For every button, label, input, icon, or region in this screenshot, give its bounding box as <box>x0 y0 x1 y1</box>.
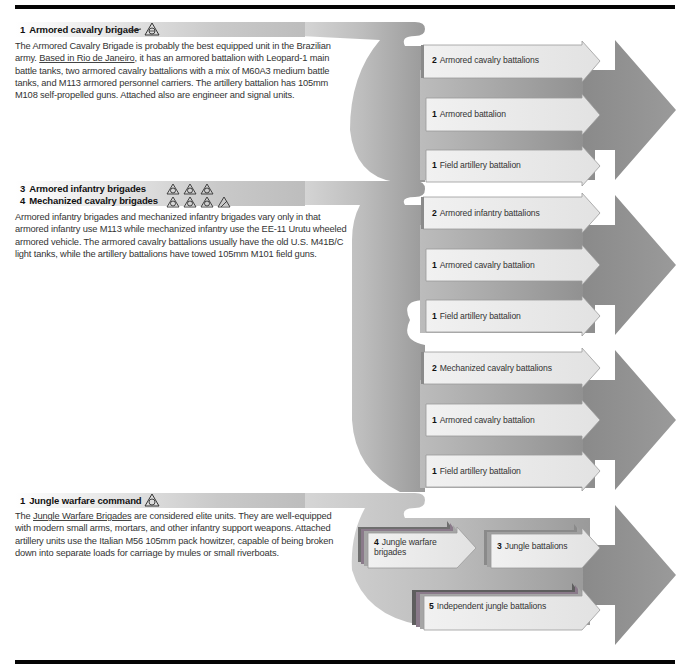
unit-armored-cavalry-battalion: 1Armored cavalry battalion <box>432 260 535 270</box>
section2-line1: Armored infantry brigades and mechanized… <box>15 211 355 223</box>
triangle-brigade-icon <box>166 196 236 208</box>
section1-title: Armored cavalry brigade <box>29 24 139 35</box>
unit-field-artillery-battalion: 1Field artillery battalion <box>432 160 521 170</box>
unit-mechanized-cavalry-battalions: 2Mechanized cavalry battalions <box>432 363 552 373</box>
section1-line1: The Armored Cavalry Brigade is probably … <box>15 40 345 52</box>
section3-line4: down into separate loads for carriage by… <box>15 547 355 559</box>
section3-header: 1Jungle warfare command <box>20 495 142 506</box>
unit-label: Field artillery battalion <box>440 311 521 321</box>
section3-count: 1 <box>20 495 25 506</box>
triangle-brigade-icon <box>144 22 160 36</box>
unit-count: 5 <box>429 601 434 611</box>
section1-line3: battle tanks, two armored cavalry battal… <box>15 65 345 77</box>
triangle-brigade-icon <box>144 493 160 507</box>
unit-label: Armored cavalry battalion <box>440 415 535 425</box>
unit-label: Armored battalion <box>440 109 506 119</box>
unit-label: Armored cavalry battalion <box>440 260 535 270</box>
unit-count: 3 <box>497 541 502 551</box>
unit-armored-cavalry-battalion: 1Armored cavalry battalion <box>432 415 535 425</box>
section2-description: Armored infantry brigades and mechanized… <box>15 211 355 260</box>
unit-armored-infantry-battalions: 2Armored infantry battalions <box>432 208 540 218</box>
mechanized-insignia-row <box>166 194 236 212</box>
bottom-rule <box>15 660 675 664</box>
section2-line2: armored infantry use M113 while mechaniz… <box>15 223 355 235</box>
unit-count: 2 <box>432 208 437 218</box>
cavalry-stroke-icon <box>128 23 142 37</box>
unit-armored-battalion: 1Armored battalion <box>432 109 506 119</box>
unit-jungle-warfare-brigades: 4Jungle warfare brigades <box>374 537 437 557</box>
unit-jungle-battalions: 3Jungle battalions <box>497 541 568 551</box>
section1-line5: M108 self-propelled guns. Attached also … <box>15 89 345 101</box>
section2-diagram <box>300 181 676 492</box>
section2-count-mechanized: 4 <box>20 195 25 206</box>
unit-count: 1 <box>432 415 437 425</box>
unit-armored-cavalry-battalions: 2Armored cavalry battalions <box>432 55 539 65</box>
section2-header-infantry: 3Armored infantry brigades <box>20 183 146 194</box>
unit-label: Field artillery battalion <box>440 466 521 476</box>
unit-label: Mechanized cavalry battalions <box>440 363 552 373</box>
section1-header: 1Armored cavalry brigade <box>20 24 139 35</box>
unit-count: 1 <box>432 160 437 170</box>
unit-label-line2: brigades <box>374 547 437 557</box>
section2-count-infantry: 3 <box>20 183 25 194</box>
section2-title-infantry: Armored infantry brigades <box>29 183 146 194</box>
unit-count: 2 <box>432 55 437 65</box>
unit-field-artillery-battalion: 1Field artillery battalion <box>432 311 521 321</box>
rio-de-janeiro-link: Based in Rio de Janeiro <box>39 53 134 63</box>
section1-line4: tanks, and M113 armored personnel carrie… <box>15 77 345 89</box>
unit-count: 1 <box>432 109 437 119</box>
section1-description: The Armored Cavalry Brigade is probably … <box>15 40 345 101</box>
unit-label: Armored infantry battalions <box>440 208 540 218</box>
section3-description: The Jungle Warfare Brigades are consider… <box>15 510 355 559</box>
section3-line3: artillery units use the Italian M56 105m… <box>15 535 355 547</box>
unit-field-artillery-battalion: 1Field artillery battalion <box>432 466 521 476</box>
unit-count: 1 <box>432 260 437 270</box>
jungle-warfare-brigades-link: Jungle Warfare Brigades <box>33 511 132 521</box>
section3-diagram <box>300 493 676 645</box>
section2-line4: light tanks, while the artillery battali… <box>15 248 355 260</box>
section2-header-mechanized: 4Mechanized cavalry brigades <box>20 195 158 206</box>
unit-label: Jungle battalions <box>505 541 568 551</box>
section1-line2: army. Based in Rio de Janeiro, it has an… <box>15 52 345 64</box>
section3-line1: The Jungle Warfare Brigades are consider… <box>15 510 355 522</box>
unit-count: 2 <box>432 363 437 373</box>
unit-count: 4 <box>374 537 379 547</box>
unit-label: Field artillery battalion <box>440 160 521 170</box>
unit-label: Armored cavalry battalions <box>440 55 539 65</box>
section3-line2: with modern small arms, mortars, and oth… <box>15 522 355 534</box>
unit-count: 1 <box>432 311 437 321</box>
section2-title-mechanized: Mechanized cavalry brigades <box>29 195 158 206</box>
section2-line3: armored vehicle. The armored cavalry bat… <box>15 236 355 248</box>
unit-count: 1 <box>432 466 437 476</box>
section3-title: Jungle warfare command <box>29 495 141 506</box>
section1-count: 1 <box>20 24 25 35</box>
unit-independent-jungle-battalions: 5Independent jungle battalions <box>429 601 546 611</box>
unit-label: Jungle warfare <box>382 537 437 547</box>
unit-label: Independent jungle battalions <box>437 601 546 611</box>
